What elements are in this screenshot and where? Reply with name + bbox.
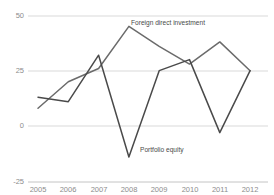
x-tick-label-2008: 2008 [121, 185, 138, 194]
line-chart-plot: 50 25 0 -25 2005 2006 2007 2008 2009 201… [0, 0, 274, 195]
x-tick-label-2012: 2012 [242, 185, 259, 194]
series-line-foreign-direct-investment [38, 26, 250, 108]
y-axis-ticks: 50 25 0 -25 [13, 11, 24, 186]
gridlines [28, 16, 268, 182]
x-tick-label-2010: 2010 [182, 185, 199, 194]
series-annotation-portfolio-equity: Portfolio equity [140, 146, 184, 154]
x-tick-label-2009: 2009 [151, 185, 168, 194]
y-tick-label-0: 0 [20, 121, 24, 130]
y-tick-label-50: 50 [16, 11, 24, 20]
y-tick-label-25: 25 [16, 66, 24, 75]
series-line-portfolio-equity [38, 55, 250, 157]
chart-container: 50 25 0 -25 2005 2006 2007 2008 2009 201… [0, 0, 274, 195]
x-tick-label-2011: 2011 [212, 185, 228, 194]
x-tick-label-2006: 2006 [60, 185, 77, 194]
series-annotation-foreign-direct-investment: Foreign direct investment [131, 19, 205, 27]
y-tick-label-minus25: -25 [13, 177, 24, 186]
x-tick-label-2007: 2007 [91, 185, 108, 194]
x-tick-label-2005: 2005 [30, 185, 47, 194]
x-axis-ticks: 2005 2006 2007 2008 2009 2010 2011 2012 [30, 185, 259, 194]
